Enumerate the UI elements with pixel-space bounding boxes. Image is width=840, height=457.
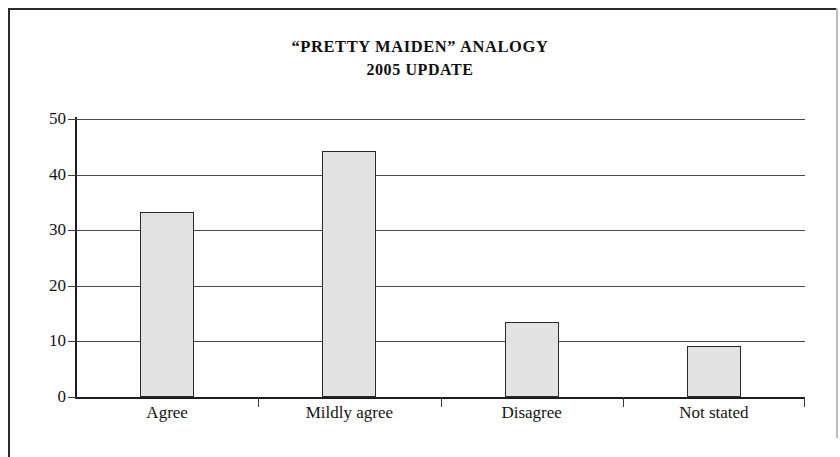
bar	[687, 346, 741, 397]
plot-area	[76, 119, 805, 397]
x-axis-category-label: Disagree	[441, 404, 623, 423]
x-axis-category-label: Mildly agree	[258, 404, 440, 423]
x-tick	[258, 397, 259, 407]
y-tick-50	[68, 119, 77, 120]
chart-title-line2: 2005 UPDATE	[0, 59, 840, 81]
y-axis-tick-label: 10	[20, 332, 66, 349]
y-axis-labels: 01020304050	[10, 0, 66, 457]
x-tick-end	[804, 397, 805, 407]
bar	[322, 151, 376, 397]
chart-page: “PRETTY MAIDEN” ANALOGY 2005 UPDATE 0102…	[0, 0, 840, 457]
x-tick	[441, 397, 442, 407]
x-axis-category-label: Not stated	[623, 404, 805, 423]
chart-title-line1: “PRETTY MAIDEN” ANALOGY	[291, 37, 548, 56]
x-axis-category-label: Agree	[76, 404, 258, 423]
gridline-50	[76, 119, 805, 120]
bar	[505, 322, 559, 397]
y-axis-tick-label: 50	[20, 110, 66, 127]
y-tick-10	[68, 341, 77, 342]
y-tick-20	[68, 286, 77, 287]
y-axis-tick-label: 40	[20, 166, 66, 183]
y-tick-40	[68, 175, 77, 176]
y-tick-30	[68, 230, 77, 231]
y-axis-tick-label: 30	[20, 221, 66, 238]
x-tick	[623, 397, 624, 407]
y-axis-tick-label: 20	[20, 277, 66, 294]
bar	[140, 212, 194, 397]
gridline-40	[76, 175, 805, 176]
chart-title: “PRETTY MAIDEN” ANALOGY 2005 UPDATE	[0, 36, 840, 81]
y-axis-tick-label: 0	[20, 388, 66, 405]
y-tick-0	[68, 397, 77, 398]
